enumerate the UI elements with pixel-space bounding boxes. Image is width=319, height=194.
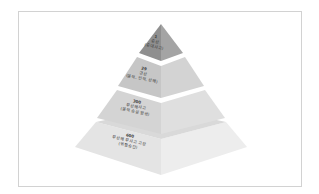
pyramid-graphic bbox=[0, 0, 319, 194]
